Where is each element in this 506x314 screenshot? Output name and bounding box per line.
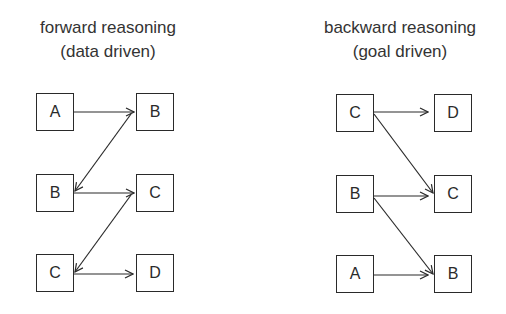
- node-label: B: [50, 184, 61, 202]
- node-label: C: [349, 104, 361, 122]
- edges-layer: [0, 0, 506, 314]
- node-label: A: [350, 265, 361, 283]
- node-label: B: [350, 185, 361, 203]
- node-label: B: [150, 103, 161, 121]
- forward-node-d: D: [136, 254, 174, 292]
- backward-node-c-middle: C: [434, 175, 472, 213]
- forward-node-b-middle: B: [36, 174, 74, 212]
- node-label: C: [49, 264, 61, 282]
- edge-backward-b-to-b: [374, 198, 433, 274]
- node-label: C: [447, 185, 459, 203]
- forward-node-b-top: B: [136, 93, 174, 131]
- backward-node-b-middle: B: [336, 175, 374, 213]
- node-label: D: [447, 104, 459, 122]
- backward-node-d: D: [434, 94, 472, 132]
- forward-node-c-middle: C: [136, 174, 174, 212]
- node-label: B: [448, 265, 459, 283]
- backward-node-b-bottom: B: [434, 255, 472, 293]
- backward-node-c-top: C: [336, 94, 374, 132]
- edge-forward-b-to-b: [75, 114, 131, 191]
- backward-node-a: A: [336, 255, 374, 293]
- node-label: A: [50, 103, 61, 121]
- edge-backward-c-to-c: [374, 114, 433, 193]
- forward-node-a: A: [36, 93, 74, 131]
- node-label: C: [149, 184, 161, 202]
- node-label: D: [149, 264, 161, 282]
- forward-node-c-bottom: C: [36, 254, 74, 292]
- edge-forward-c-to-c: [75, 195, 131, 272]
